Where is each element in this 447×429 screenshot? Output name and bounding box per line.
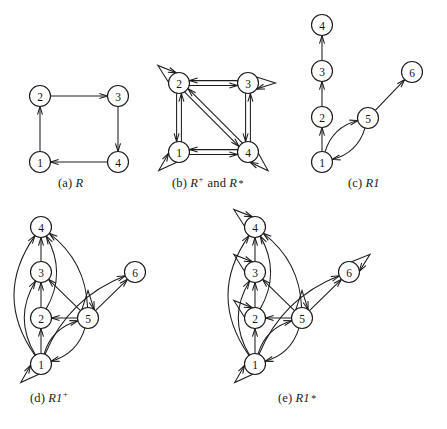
graph-node-e-2[interactable]: 2 [245,308,266,329]
node-label-2: 2 [38,313,44,325]
node-layer-c: 432156 [312,15,423,173]
graph-node-e-4[interactable]: 4 [245,217,266,238]
graph-node-a-3[interactable]: 3 [108,86,129,107]
node-label-3: 3 [252,267,258,279]
node-label-3: 3 [245,78,251,90]
edge-d-1-to-3-arrowhead [29,281,35,289]
node-label-4: 4 [38,222,44,234]
caption-panel-e: (e)R1* [278,391,316,406]
edge-layer-d [14,233,128,361]
caption-c-relation: R1 [362,176,379,190]
caption-e-label: (e) [278,391,292,405]
caption-b-label: (b) [172,176,187,190]
caption-b-relation: R [187,176,198,190]
graph-node-b-3[interactable]: 3 [238,73,259,94]
graph-node-e-1[interactable]: 1 [245,354,266,375]
digraph-panel-c: 432156 [312,15,423,173]
graph-node-c-4[interactable]: 4 [312,15,333,36]
caption-panel-b: (b)R+andR* [172,176,244,191]
digraph-panel-e: 432156 [228,209,370,382]
node-layer-d: 432156 [31,217,146,375]
node-label-4: 4 [319,20,325,32]
graph-node-d-6[interactable]: 6 [125,262,146,283]
node-label-4: 4 [115,157,121,169]
caption-a-label: (a) [58,176,72,190]
graph-node-a-1[interactable]: 1 [30,152,51,173]
caption-e-relation: R1 [292,391,309,405]
caption-d-exponent: + [62,389,68,399]
node-label-5: 5 [299,313,305,325]
caption-b-relation2: R [226,176,237,190]
digraph-figure-canvas: 23142314432156432156432156 [0,0,447,429]
caption-b-exponent: + [198,174,204,184]
graph-node-d-3[interactable]: 3 [31,262,52,283]
caption-panel-c: (c)R1 [348,176,380,191]
node-label-3: 3 [115,91,121,103]
edge-d-1-to-4-curve [14,236,35,356]
node-layer-b: 2314 [169,73,259,163]
edge-c-5-to-6-line [375,80,404,111]
graph-node-b-2[interactable]: 2 [169,73,190,94]
node-label-5: 5 [365,113,371,125]
caption-d-label: (d) [30,391,45,405]
graph-node-b-1[interactable]: 1 [169,142,190,163]
graph-node-e-6[interactable]: 6 [339,262,360,283]
node-label-1: 1 [38,359,44,371]
graph-node-e-5[interactable]: 5 [292,308,313,329]
graph-node-a-2[interactable]: 2 [30,86,51,107]
graph-node-d-2[interactable]: 2 [31,308,52,329]
edge-d-5-to-3-line [49,279,81,310]
edge-layer-a [37,93,120,164]
digraph-panel-b: 2314 [158,65,276,170]
node-label-2: 2 [37,91,43,103]
edge-e-5-to-4-curve [263,233,301,307]
caption-b-exponent2: * [237,178,244,189]
edge-c-5-to-1-curve [332,128,365,159]
node-label-5: 5 [85,313,91,325]
self-loop-d-1-arrowhead [24,365,30,373]
graph-node-d-4[interactable]: 4 [31,217,52,238]
graph-node-a-4[interactable]: 4 [108,152,129,173]
caption-panel-d: (d)R1+ [30,391,68,406]
node-label-2: 2 [252,313,258,325]
graph-node-e-3[interactable]: 3 [245,262,266,283]
self-loop-b-1-arrowhead [162,153,168,161]
node-label-4: 4 [245,147,251,159]
node-label-6: 6 [409,67,415,79]
node-layer-e: 432156 [245,217,360,375]
node-label-3: 3 [319,66,325,78]
edge-layer-e [228,233,342,361]
graph-node-d-5[interactable]: 5 [78,308,99,329]
graph-node-b-4[interactable]: 4 [238,142,259,163]
graph-node-c-5[interactable]: 5 [358,108,379,129]
node-label-1: 1 [319,157,325,169]
node-label-6: 6 [132,267,138,279]
node-label-1: 1 [176,147,182,159]
graph-node-c-1[interactable]: 1 [312,152,333,173]
graph-node-c-6[interactable]: 6 [402,62,423,83]
digraph-panel-d: 432156 [14,217,146,383]
digraph-panel-a: 2314 [30,86,129,173]
edge-layer-c [319,36,404,160]
graph-node-d-1[interactable]: 1 [31,354,52,375]
edge-e-1-to-3-arrowhead [243,281,249,289]
node-label-3: 3 [38,267,44,279]
node-label-1: 1 [252,359,258,371]
edge-d-5-to-6-line [96,279,128,310]
caption-d-relation: R1 [45,391,62,405]
graph-node-c-3[interactable]: 3 [312,61,333,82]
node-label-6: 6 [346,267,352,279]
edge-e-1-to-4-curve [228,236,249,356]
caption-b-conjunction: and [204,176,227,190]
graph-node-c-2[interactable]: 2 [312,107,333,128]
edge-b-2-to-4-line [185,92,239,146]
self-loop-e-1-arrowhead [238,365,244,373]
edge-d-5-to-4-curve [49,233,87,307]
caption-panel-a: (a)R [58,176,83,191]
edge-e-5-to-6-line [310,279,342,310]
node-label-2: 2 [176,78,182,90]
caption-a-relation: R [72,176,83,190]
node-label-1: 1 [37,157,43,169]
edge-e-5-to-3-line [263,279,295,310]
edge-b-4-to-2-line [188,89,242,143]
